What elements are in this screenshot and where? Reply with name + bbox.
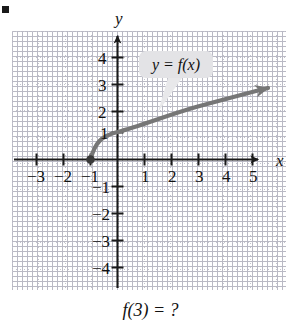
xtick-label-5: 5 xyxy=(249,168,258,185)
xtick-label-3: 3 xyxy=(195,168,204,185)
xtick-label-2: 2 xyxy=(168,168,177,185)
x-axis-label: x xyxy=(276,152,284,169)
xtick-label-neg2: −2 xyxy=(54,168,72,185)
xtick-label-neg3: −3 xyxy=(27,168,45,185)
callout-tail xyxy=(158,78,182,112)
function-graph-figure: −3 −2 −1 1 2 3 4 5 4 3 2 1 −1 −2 −3 −4 y… xyxy=(0,0,301,333)
ytick-label-3: 3 xyxy=(98,77,107,94)
ytick-label-4: 4 xyxy=(98,50,107,67)
ytick-label-2: 2 xyxy=(98,104,107,121)
ytick-label-neg2: −2 xyxy=(92,206,110,223)
figure-caption: f(3) = ? xyxy=(0,300,301,321)
ytick-label-1: 1 xyxy=(100,125,109,142)
ytick-label-neg4: −4 xyxy=(92,260,110,277)
y-axis-label: y xyxy=(115,10,123,27)
curve-label-text: y = f(x) xyxy=(139,51,213,78)
ytick-label-neg3: −3 xyxy=(92,233,110,250)
ytick-label-neg1: −1 xyxy=(92,179,110,196)
xtick-label-4: 4 xyxy=(222,168,231,185)
xtick-label-1: 1 xyxy=(141,168,150,185)
curve-endpoint-dot xyxy=(86,155,95,164)
